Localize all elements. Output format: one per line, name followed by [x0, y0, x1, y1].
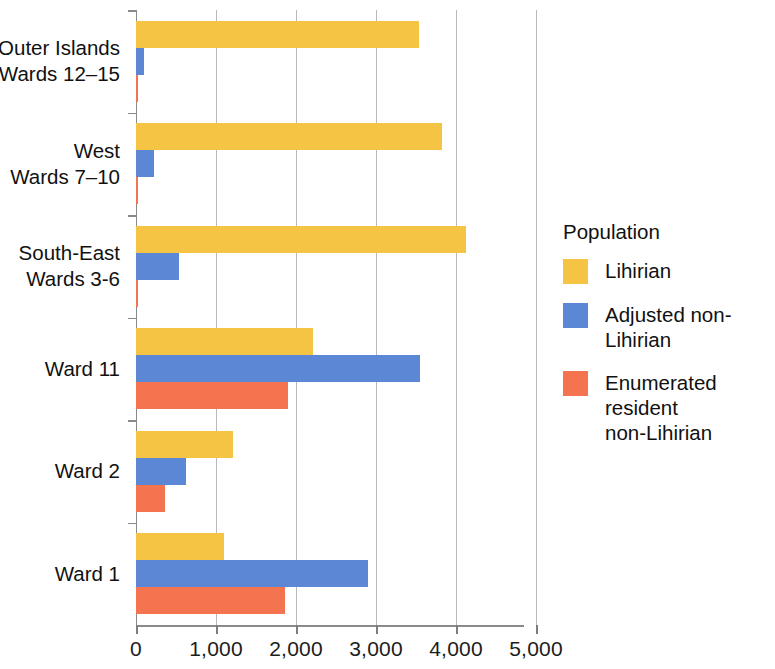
bar — [136, 75, 138, 102]
legend-item[interactable]: Lihirian — [563, 258, 775, 284]
y-axis-tick — [128, 523, 137, 525]
legend-label: Lihirian — [605, 258, 671, 283]
x-tick-mark — [376, 625, 378, 634]
y-axis-category-label: Ward 11 — [0, 356, 120, 382]
gridline — [536, 10, 537, 625]
bar — [136, 533, 224, 560]
x-tick-label: 5,000 — [509, 637, 563, 661]
legend-label: Adjusted non-Lihirian — [605, 302, 775, 352]
legend-items: LihirianAdjusted non-LihirianEnumerated … — [563, 258, 775, 445]
y-axis-category-label: Ward 1 — [0, 561, 120, 587]
y-axis-tick — [128, 113, 137, 115]
legend-swatch — [563, 303, 588, 328]
x-tick-mark — [536, 625, 538, 634]
x-tick-mark — [216, 625, 218, 634]
gridline — [456, 10, 457, 625]
legend: Population LihirianAdjusted non-Lihirian… — [563, 220, 775, 463]
bar — [136, 123, 442, 150]
gridline — [376, 10, 377, 625]
x-tick-label: 1,000 — [189, 637, 243, 661]
bar — [136, 431, 233, 458]
y-axis-category-label: Outer Islands Wards 12–15 — [0, 35, 120, 87]
bar — [136, 485, 165, 512]
x-tick-label: 0 — [130, 637, 142, 661]
legend-swatch — [563, 371, 588, 396]
bar — [136, 177, 138, 204]
gridline — [296, 10, 297, 625]
legend-label: Enumerated resident non-Lihirian — [605, 370, 775, 445]
legend-item[interactable]: Adjusted non-Lihirian — [563, 302, 775, 352]
y-axis-tick — [128, 420, 137, 422]
bar — [136, 328, 313, 355]
y-axis-category-label: West Wards 7–10 — [0, 138, 120, 190]
bar — [136, 587, 285, 614]
bar — [136, 226, 466, 253]
legend-title: Population — [563, 220, 775, 244]
x-tick-label: 4,000 — [429, 637, 483, 661]
bar — [136, 560, 368, 587]
bar-chart: 01,0002,0003,0004,0005,000 Ward 1Ward 2W… — [0, 0, 775, 669]
bar — [136, 458, 186, 485]
bar — [136, 382, 288, 409]
legend-item[interactable]: Enumerated resident non-Lihirian — [563, 370, 775, 445]
x-tick-mark — [456, 625, 458, 634]
x-tick-label: 3,000 — [349, 637, 403, 661]
y-axis-category-label: South-East Wards 3-6 — [0, 240, 120, 292]
bar — [136, 150, 154, 177]
y-axis-tick — [128, 10, 137, 12]
bar — [136, 280, 138, 307]
bar — [136, 253, 179, 280]
legend-swatch — [563, 259, 588, 284]
bar — [136, 355, 420, 382]
bar — [136, 48, 144, 75]
x-tick-label: 2,000 — [269, 637, 323, 661]
x-axis-line — [136, 625, 524, 627]
bar — [136, 21, 419, 48]
x-tick-mark — [136, 625, 138, 634]
x-tick-mark — [296, 625, 298, 634]
y-axis-tick — [128, 215, 137, 217]
y-axis-category-label: Ward 2 — [0, 458, 120, 484]
y-axis-tick — [128, 318, 137, 320]
